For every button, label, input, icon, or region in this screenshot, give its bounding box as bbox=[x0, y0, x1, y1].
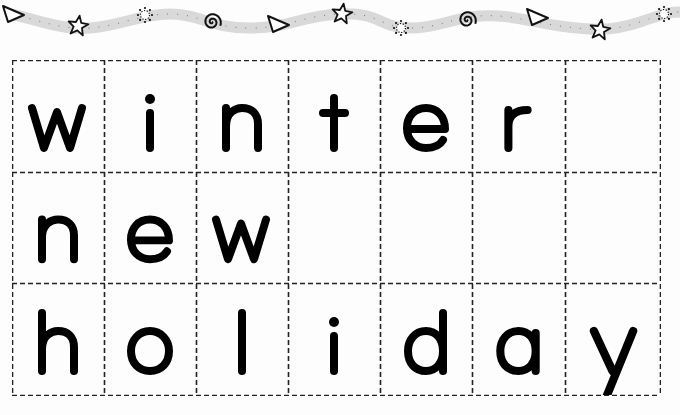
letter-r: r bbox=[472, 60, 565, 172]
letter-card: i bbox=[288, 283, 380, 395]
blank-card bbox=[472, 172, 565, 283]
letter-card: d bbox=[380, 283, 472, 395]
blank-card bbox=[565, 60, 660, 172]
letter-o: o bbox=[104, 283, 196, 395]
letter-card: r bbox=[472, 60, 565, 172]
blank-card bbox=[565, 172, 660, 283]
letter-e: e bbox=[380, 60, 472, 172]
letter-card: w bbox=[12, 60, 104, 172]
letter-d: d bbox=[380, 283, 472, 395]
letter-card: h bbox=[12, 283, 104, 395]
letter-card: t bbox=[288, 60, 380, 172]
letter-w: w bbox=[196, 172, 288, 283]
letter-y: y bbox=[565, 283, 660, 395]
letter-i: i bbox=[288, 283, 380, 395]
letter-e: e bbox=[104, 172, 196, 283]
letter-card: n bbox=[196, 60, 288, 172]
letter-card: e bbox=[104, 172, 196, 283]
letter-h: h bbox=[12, 283, 104, 395]
word-row-winter: winter bbox=[12, 60, 660, 172]
decorative-border bbox=[0, 0, 680, 50]
letter-card: l bbox=[196, 283, 288, 395]
letter-w: w bbox=[12, 60, 104, 172]
letter-card: n bbox=[12, 172, 104, 283]
letter-a: a bbox=[472, 283, 565, 395]
letter-i: i bbox=[104, 60, 196, 172]
blank-card bbox=[288, 172, 380, 283]
letter-n: n bbox=[196, 60, 288, 172]
word-row-new: new bbox=[12, 172, 660, 283]
letter-card: w bbox=[196, 172, 288, 283]
letter-card: e bbox=[380, 60, 472, 172]
star-icon bbox=[591, 20, 611, 40]
letter-card: i bbox=[104, 60, 196, 172]
letter-grid: winternewholiday bbox=[12, 60, 660, 395]
letter-card: a bbox=[472, 283, 565, 395]
star-icon bbox=[333, 4, 353, 24]
letter-card: y bbox=[565, 283, 660, 395]
letter-l: l bbox=[196, 283, 288, 395]
letter-n: n bbox=[12, 172, 104, 283]
letter-card: o bbox=[104, 283, 196, 395]
blank-card bbox=[380, 172, 472, 283]
word-row-holiday: holiday bbox=[12, 283, 660, 395]
letter-t: t bbox=[288, 60, 380, 172]
